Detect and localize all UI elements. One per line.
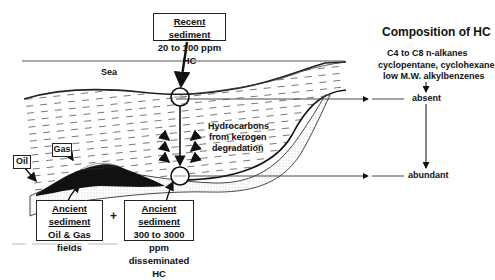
plus-sign: + — [110, 210, 117, 224]
hydrocarbons-line-2: from kerogen — [209, 132, 267, 142]
ancient-disseminated-line3: disseminated HC — [128, 254, 190, 280]
hydrocarbons-line-3: degradation — [212, 143, 264, 153]
ancient-disseminated-title: Ancient sediment — [128, 202, 190, 228]
composition-line-3: low M.W. alkylbenzenes — [383, 71, 485, 81]
absent-label: absent — [412, 93, 441, 103]
abundant-label: abundant — [408, 170, 449, 180]
sea-label: Sea — [101, 67, 117, 77]
ancient-disseminated-box: Ancient sediment 300 to 3000 ppm dissemi… — [124, 200, 194, 241]
oil-label-box: Oil — [13, 155, 31, 169]
composition-line-1: C4 to C8 n-alkanes — [387, 48, 468, 58]
recent-sediment-title: Recent sediment — [157, 15, 222, 41]
faded-caption — [12, 243, 182, 246]
composition-line-2: cyclopentane, cyclohexane — [378, 60, 495, 70]
composition-title: Composition of HC — [382, 26, 491, 40]
gas-label-box: Gas — [52, 143, 72, 157]
recent-sediment-box: Recent sediment 20 to 100 ppm HC — [153, 13, 226, 41]
ancient-fields-box: Ancient sediment Oil & Gas fields — [36, 200, 103, 241]
ancient-fields-title: Ancient sediment — [40, 202, 99, 228]
ancient-fields-line2: Oil & Gas — [40, 228, 99, 241]
ancient-disseminated-line2: 300 to 3000 ppm — [128, 228, 190, 254]
hydrocarbons-line-1: Hydrocarbons — [208, 121, 269, 131]
recent-sediment-range: 20 to 100 ppm HC — [157, 41, 222, 67]
